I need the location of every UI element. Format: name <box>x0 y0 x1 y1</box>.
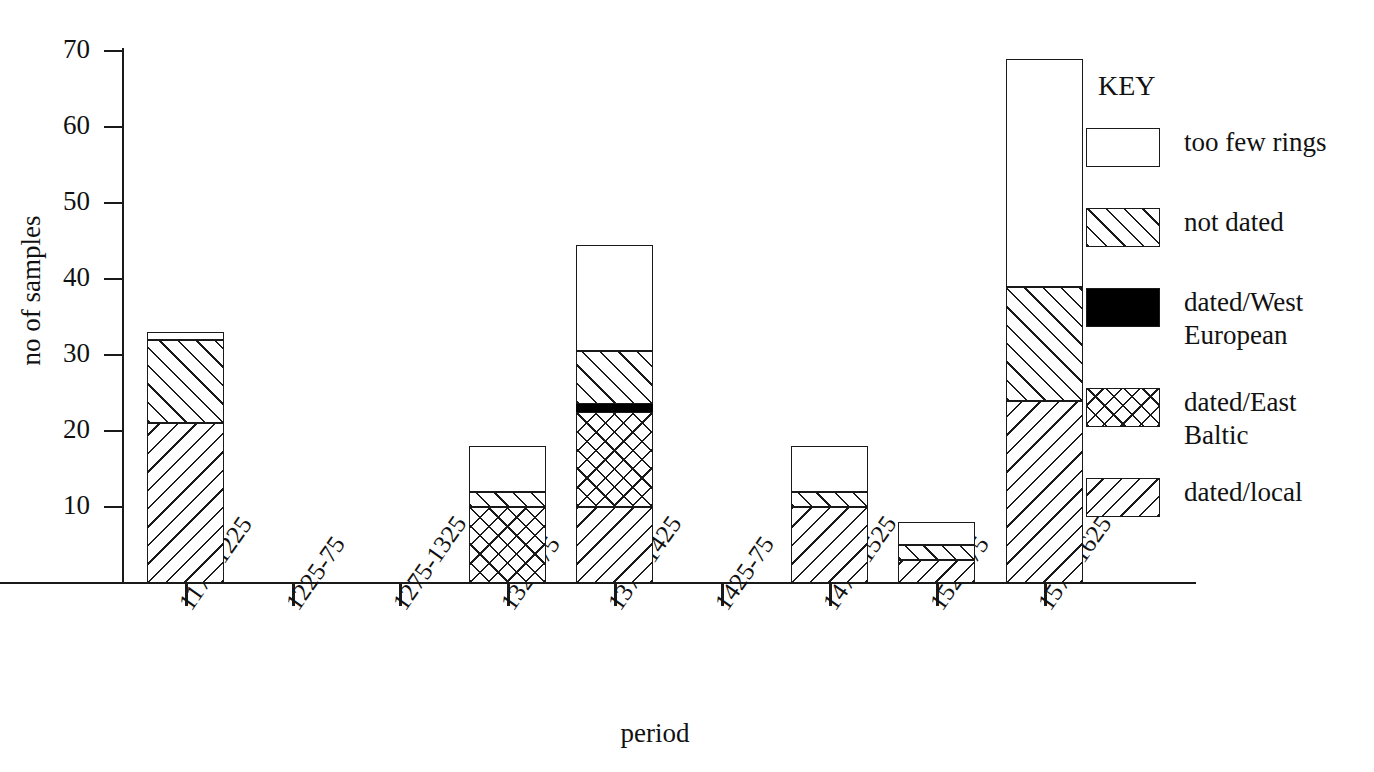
bar-segment <box>576 245 653 351</box>
bar-segment <box>791 446 868 492</box>
bar-segment <box>898 545 975 560</box>
bar-segment <box>898 522 975 545</box>
legend-swatch <box>1086 208 1160 247</box>
legend-item: dated/local <box>1086 478 1374 518</box>
bar-segment <box>469 446 546 492</box>
legend-label: too few rings <box>1184 126 1326 159</box>
y-tick-mark <box>104 126 122 128</box>
bar-segment <box>898 560 975 583</box>
bar-segment <box>1006 401 1083 583</box>
x-tick-label: 1275-1325 <box>388 511 471 615</box>
legend-item: not dated <box>1086 208 1374 248</box>
legend-label: dated/local <box>1184 476 1302 509</box>
bar-segment <box>576 404 653 412</box>
legend-label-line: European <box>1184 319 1303 352</box>
y-tick-mark <box>104 50 122 52</box>
x-tick-label: 1225-75 <box>281 532 350 615</box>
legend-swatch <box>1086 128 1160 167</box>
y-tick-mark <box>104 202 122 204</box>
x-tick-label: 1425-75 <box>710 532 779 615</box>
legend-swatch <box>1086 288 1160 327</box>
bar-segment <box>469 492 546 507</box>
bar-segment <box>147 423 224 583</box>
y-tick-label: 10 <box>42 492 90 519</box>
x-axis-title: period <box>555 718 755 749</box>
bar-segment <box>1006 59 1083 287</box>
legend-label-line: dated/West <box>1184 286 1303 319</box>
y-tick-label: 20 <box>42 416 90 443</box>
legend-title: KEY <box>1098 70 1156 102</box>
bar-segment <box>791 492 868 507</box>
y-tick-mark <box>104 278 122 280</box>
y-axis-line <box>122 48 124 583</box>
bar-segment <box>469 507 546 583</box>
legend-label-line: dated/local <box>1184 476 1302 509</box>
y-tick-mark <box>104 354 122 356</box>
y-tick-mark <box>104 430 122 432</box>
bar-segment <box>576 507 653 583</box>
legend-item: too few rings <box>1086 128 1374 168</box>
legend-swatch <box>1086 478 1160 517</box>
legend-label-line: Baltic <box>1184 419 1296 452</box>
bar-segment <box>147 340 224 424</box>
legend-label-line: dated/East <box>1184 386 1296 419</box>
legend-label-line: too few rings <box>1184 126 1326 159</box>
y-tick-label: 50 <box>42 188 90 215</box>
legend-label: dated/EastBaltic <box>1184 386 1296 452</box>
y-axis-title: no of samples <box>16 196 47 386</box>
y-tick-label: 70 <box>42 36 90 63</box>
y-tick-mark <box>104 506 122 508</box>
bar-segment <box>576 412 653 507</box>
bar-segment <box>147 332 224 340</box>
bar-segment <box>1006 287 1083 401</box>
bar-segment <box>576 351 653 404</box>
y-tick-label: 40 <box>42 264 90 291</box>
legend-label: dated/WestEuropean <box>1184 286 1303 352</box>
legend-label: not dated <box>1184 206 1284 239</box>
y-tick-label: 60 <box>42 112 90 139</box>
chart-figure: 10203040506070 1175-12251225-751275-1325… <box>0 0 1374 772</box>
legend-item: dated/EastBaltic <box>1086 388 1374 428</box>
legend-swatch <box>1086 388 1160 427</box>
y-tick-label: 30 <box>42 340 90 367</box>
bar-segment <box>791 507 868 583</box>
legend-item: dated/WestEuropean <box>1086 288 1374 328</box>
legend-label-line: not dated <box>1184 206 1284 239</box>
